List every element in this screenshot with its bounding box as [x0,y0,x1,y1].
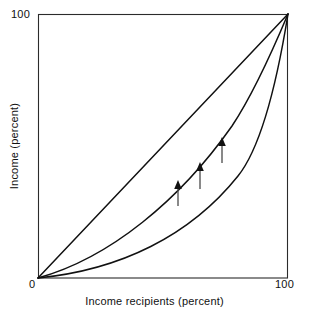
x-axis-tick-100: 100 [275,279,294,290]
equality-line [38,14,288,278]
plot-area [0,0,309,314]
y-axis-tick-100: 100 [11,9,30,20]
arrow-head-icon [174,180,182,189]
x-axis-title: Income recipients (percent) [0,295,309,307]
y-axis-tick-0: 0 [29,279,35,290]
shift-arrow-3 [218,137,226,163]
lorenz-curve-figure: 100 0 100 Income recipients (percent) In… [0,0,309,314]
shift-arrow-2 [196,162,204,189]
arrow-head-icon [218,137,226,146]
